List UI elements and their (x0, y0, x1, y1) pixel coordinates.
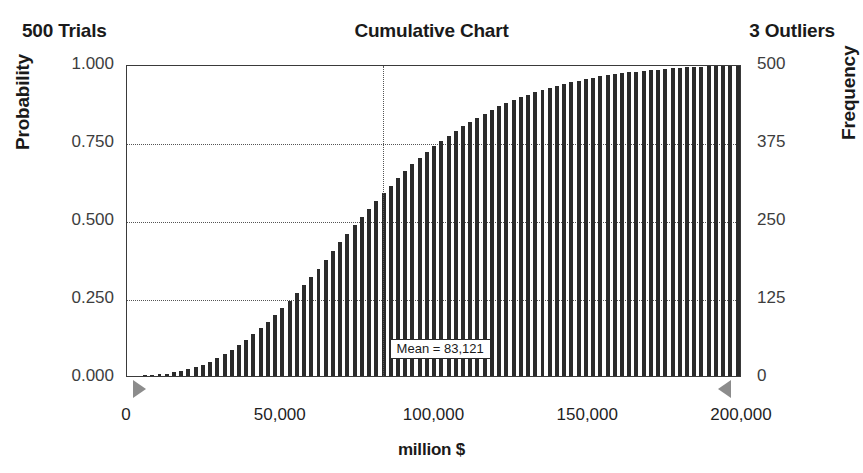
chart-bar[interactable] (302, 285, 306, 376)
chart-bar[interactable] (634, 72, 638, 377)
chart-bar[interactable] (259, 328, 263, 376)
chart-bar[interactable] (663, 69, 667, 376)
chart-bar[interactable] (649, 70, 653, 376)
chart-bar[interactable] (548, 88, 552, 376)
chart-plot-area[interactable] (126, 65, 741, 377)
chart-bar[interactable] (483, 114, 487, 376)
left-truncation-grabber[interactable] (133, 380, 146, 398)
chart-bar[interactable] (309, 277, 313, 376)
y2-axis-tick-label: 375 (757, 132, 817, 152)
chart-bar[interactable] (360, 217, 364, 376)
mean-value-badge: Mean = 83,121 (390, 339, 491, 359)
y2-axis-tick-label: 0 (757, 366, 817, 386)
chart-bar[interactable] (591, 78, 595, 376)
x-axis-tick-label: 200,000 (681, 405, 801, 425)
y2-axis-title-frequency: Frequency (838, 46, 860, 140)
chart-bar[interactable] (736, 66, 740, 376)
chart-bar[interactable] (562, 84, 566, 376)
chart-bar[interactable] (280, 308, 284, 376)
chart-bar[interactable] (295, 293, 299, 376)
chart-bar[interactable] (714, 66, 718, 376)
chart-bar[interactable] (172, 372, 176, 376)
cumulative-bars[interactable] (127, 66, 740, 376)
chart-bar[interactable] (165, 374, 169, 376)
chart-bar[interactable] (367, 209, 371, 376)
chart-bar[interactable] (555, 86, 559, 376)
chart-bar[interactable] (598, 76, 602, 376)
outliers-count-label: 3 Outliers (749, 20, 835, 42)
x-axis-tick-label: 100,000 (374, 405, 494, 425)
chart-bar[interactable] (613, 74, 617, 376)
page-title: Cumulative Chart (0, 20, 863, 42)
chart-bar[interactable] (237, 345, 241, 376)
y-axis-tick-label: 0.500 (44, 210, 114, 230)
chart-bar[interactable] (201, 365, 205, 376)
y-axis-tick-label: 0.250 (44, 288, 114, 308)
y2-axis-tick-label: 500 (757, 54, 817, 74)
right-truncation-grabber[interactable] (718, 380, 731, 398)
x-axis-title-million-dollars: million $ (0, 440, 863, 460)
x-axis-tick-label: 0 (66, 405, 186, 425)
chart-bar[interactable] (627, 72, 631, 376)
chart-header: 500 Trials Cumulative Chart 3 Outliers (0, 20, 863, 50)
x-axis-tick-label: 50,000 (220, 405, 340, 425)
chart-bar[interactable] (606, 75, 610, 376)
chart-bar[interactable] (331, 251, 335, 376)
chart-bar[interactable] (208, 362, 212, 376)
chart-bar[interactable] (584, 79, 588, 376)
chart-bar[interactable] (230, 350, 234, 376)
chart-bar[interactable] (475, 118, 479, 376)
chart-bar[interactable] (671, 68, 675, 376)
chart-bar[interactable] (273, 315, 277, 376)
chart-bar[interactable] (678, 68, 682, 376)
chart-bar[interactable] (504, 103, 508, 376)
chart-bar[interactable] (244, 340, 248, 376)
chart-bar[interactable] (642, 71, 646, 376)
chart-bar[interactable] (353, 225, 357, 376)
chart-bar[interactable] (721, 66, 725, 376)
chart-bar[interactable] (656, 70, 660, 376)
chart-bar[interactable] (215, 358, 219, 376)
y-axis-tick-label: 0.000 (44, 366, 114, 386)
chart-bar[interactable] (490, 110, 494, 376)
chart-bar[interactable] (251, 334, 255, 376)
chart-bar[interactable] (223, 354, 227, 376)
chart-bar[interactable] (533, 92, 537, 376)
chart-bar[interactable] (324, 260, 328, 376)
chart-bar[interactable] (577, 81, 581, 376)
chart-bar[interactable] (158, 374, 162, 376)
chart-bar[interactable] (497, 106, 501, 376)
y2-axis-tick-label: 250 (757, 210, 817, 230)
chart-bar[interactable] (569, 82, 573, 376)
y-axis-tick-label: 0.750 (44, 132, 114, 152)
chart-bar[interactable] (150, 375, 154, 376)
chart-bar[interactable] (194, 367, 198, 376)
chart-bar[interactable] (699, 67, 703, 377)
chart-bar[interactable] (685, 67, 689, 376)
y2-axis-tick-label: 125 (757, 288, 817, 308)
chart-bar[interactable] (692, 67, 696, 376)
chart-bar[interactable] (317, 269, 321, 376)
mean-marker-line-stroke[interactable] (383, 66, 384, 376)
chart-bar[interactable] (707, 66, 711, 376)
chart-bar[interactable] (338, 242, 342, 376)
chart-bar[interactable] (288, 301, 292, 377)
chart-bar[interactable] (728, 66, 732, 376)
chart-bar[interactable] (519, 97, 523, 376)
chart-bar[interactable] (541, 90, 545, 376)
chart-bar[interactable] (620, 73, 624, 376)
chart-bar[interactable] (374, 201, 378, 376)
chart-bar[interactable] (526, 95, 530, 376)
chart-bar[interactable] (468, 122, 472, 376)
chart-bar[interactable] (179, 371, 183, 376)
chart-bar[interactable] (512, 100, 516, 376)
chart-bar[interactable] (143, 375, 147, 376)
chart-bar[interactable] (345, 234, 349, 376)
y-axis-tick-label: 1.000 (44, 54, 114, 74)
chart-bar[interactable] (266, 322, 270, 376)
chart-bar[interactable] (186, 369, 190, 376)
y-axis-title-probability: Probability (12, 54, 34, 150)
x-axis-tick-label: 150,000 (527, 405, 647, 425)
